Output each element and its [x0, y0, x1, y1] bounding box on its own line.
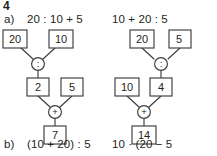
edge-top-right: [43, 48, 55, 59]
node-r-operator-bottom-label: +: [141, 106, 147, 117]
worksheet-page: 4 a) 20 : 10 + 5 10 + 20 : 5 20 10: [0, 0, 217, 156]
edge-r-top-left: [142, 48, 154, 59]
node-r-operand-mid-left-label: 10: [121, 81, 133, 93]
node-operand-top-right-label: 10: [55, 33, 67, 45]
node-r-operand-top-right-label: 5: [176, 33, 182, 45]
expression-a: 20 : 10 + 5: [27, 13, 83, 25]
edge-r-mid-left: [127, 96, 139, 107]
node-operand-top-left-label: 20: [9, 33, 21, 45]
calculation-tree-right: 20 5 : 10 4 + 14: [112, 28, 217, 134]
edge-r-mid-right: [149, 96, 161, 107]
node-r-operand-top-left-label: 20: [136, 33, 148, 45]
exercise-number: 4: [3, 0, 10, 13]
node-operand-mid-right-label: 5: [69, 81, 75, 93]
expression-right-top: 10 + 20 : 5: [112, 13, 168, 26]
expression-right-bottom: 10 · (20 − 5: [112, 138, 172, 151]
node-r-result-mid-right-label: 4: [158, 81, 164, 93]
node-result-mid-left-label: 2: [35, 81, 41, 93]
edge-r-top-right: [168, 48, 180, 59]
expression-b: (10 + 20) : 5: [27, 138, 91, 150]
expression-a-row: a) 20 : 10 + 5: [4, 13, 83, 26]
edge-mid-right: [60, 96, 72, 107]
item-label-a: a): [4, 13, 14, 25]
edge-top-left: [21, 48, 33, 59]
node-operator-top-label: :: [37, 58, 40, 69]
expression-b-row: b) (10 + 20) : 5: [4, 138, 91, 151]
calculation-tree-a: 20 10 : 2 5 + 7: [0, 28, 112, 134]
node-operator-bottom-label: +: [52, 106, 58, 117]
item-label-b: b): [4, 138, 14, 150]
edge-mid-left: [38, 96, 50, 107]
node-r-operator-top-label: :: [160, 58, 163, 69]
